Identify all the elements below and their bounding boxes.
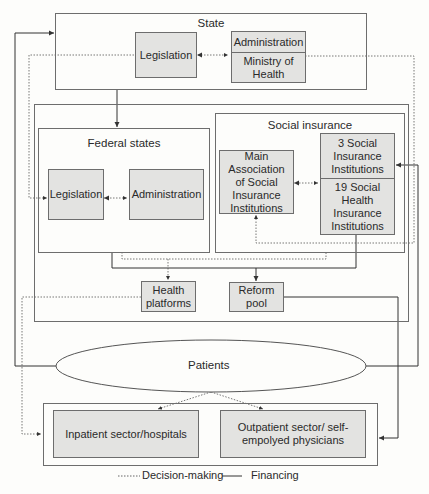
main-association-box: Main Association of Social Insurance Ins… — [219, 150, 294, 214]
ministry-of-health-box: Administration Ministry of Health — [231, 31, 306, 83]
outpatient-box: Outpatient sector/ self-empolyed physici… — [220, 410, 366, 458]
federal-administration-box: Administration — [129, 169, 204, 220]
federal-legislation-box: Legislation — [48, 169, 104, 220]
state-legislation-label: Legislation — [140, 49, 193, 62]
administration-label: Administration — [232, 32, 305, 53]
three-social-label: 3 Social Insurance Institutions — [321, 134, 394, 179]
health-platforms-label: Health platforms — [142, 284, 195, 310]
inpatient-label: Inpatient sector/hospitals — [65, 428, 187, 441]
reform-pool-box: Reform pool — [229, 282, 284, 312]
legend-financing: Financing — [251, 469, 299, 481]
health-platforms-box: Health platforms — [141, 281, 196, 312]
state-legislation-box: Legislation — [135, 32, 197, 78]
ministry-label: Ministry of Health — [232, 53, 305, 83]
inpatient-box: Inpatient sector/hospitals — [53, 410, 199, 458]
legend-decision-making: Decision-making — [142, 469, 223, 481]
outpatient-label: Outpatient sector/ self-empolyed physici… — [231, 421, 355, 447]
nineteen-health-label: 19 Social Health Insurance Institutions — [321, 179, 394, 235]
state-box: State — [55, 13, 367, 90]
reform-pool-label: Reform pool — [238, 284, 275, 310]
federal-administration-label: Administration — [132, 188, 202, 201]
federal-legislation-label: Legislation — [50, 188, 103, 201]
patients-label: Patients — [188, 359, 230, 371]
social-title: Social insurance — [216, 119, 404, 131]
federal-title: Federal states — [39, 137, 209, 149]
main-association-label: Main Association of Social Insurance Ins… — [223, 150, 290, 215]
social-institutions-box: 3 Social Insurance Institutions 19 Socia… — [320, 133, 395, 235]
state-title: State — [56, 17, 366, 29]
